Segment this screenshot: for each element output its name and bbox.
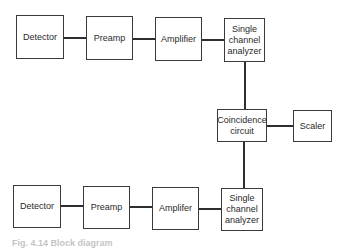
- preamp-top-label: Preamp: [94, 33, 126, 44]
- coincidence-circuit-box: Coincidence circuit: [217, 109, 267, 142]
- connector-coincidence-scaler: [267, 125, 293, 127]
- connector-amplifier-sca-top: [202, 39, 224, 41]
- connector-preamp-amplifier-top: [133, 38, 155, 40]
- sca-top-box: Single channel analyzer: [224, 18, 265, 62]
- connector-detector-preamp-top: [64, 37, 86, 39]
- scaler-label: Scaler: [300, 121, 326, 132]
- amplifier-top-box: Amplifier: [155, 17, 202, 61]
- preamp-top-box: Preamp: [86, 16, 133, 60]
- coincidence-circuit-label: Coincidence circuit: [217, 115, 267, 137]
- figure-caption: Fig. 4.14 Block diagram: [12, 238, 113, 248]
- connector-coincidence-sca-bottom: [243, 142, 245, 188]
- detector-top-label: Detector: [23, 32, 57, 43]
- amplifier-bottom-label: Amplifer: [159, 203, 192, 214]
- sca-bottom-box: Single channel analyzer: [221, 188, 263, 231]
- connector-detector-preamp-bottom: [61, 205, 83, 207]
- detector-top-box: Detector: [16, 15, 64, 59]
- detector-bottom-label: Detector: [20, 201, 54, 212]
- connector-preamp-amplifier-bottom: [130, 206, 152, 208]
- scaler-box: Scaler: [293, 110, 332, 142]
- connector-sca-top-coincidence: [244, 62, 246, 109]
- sca-top-label: Single channel analyzer: [227, 24, 261, 57]
- detector-bottom-box: Detector: [13, 185, 61, 228]
- amplifier-bottom-box: Amplifer: [152, 187, 199, 230]
- sca-bottom-label: Single channel analyzer: [225, 193, 259, 226]
- connector-amplifier-sca-bottom: [199, 208, 221, 210]
- preamp-bottom-label: Preamp: [91, 202, 123, 213]
- preamp-bottom-box: Preamp: [83, 186, 130, 229]
- amplifier-top-label: Amplifier: [161, 34, 196, 45]
